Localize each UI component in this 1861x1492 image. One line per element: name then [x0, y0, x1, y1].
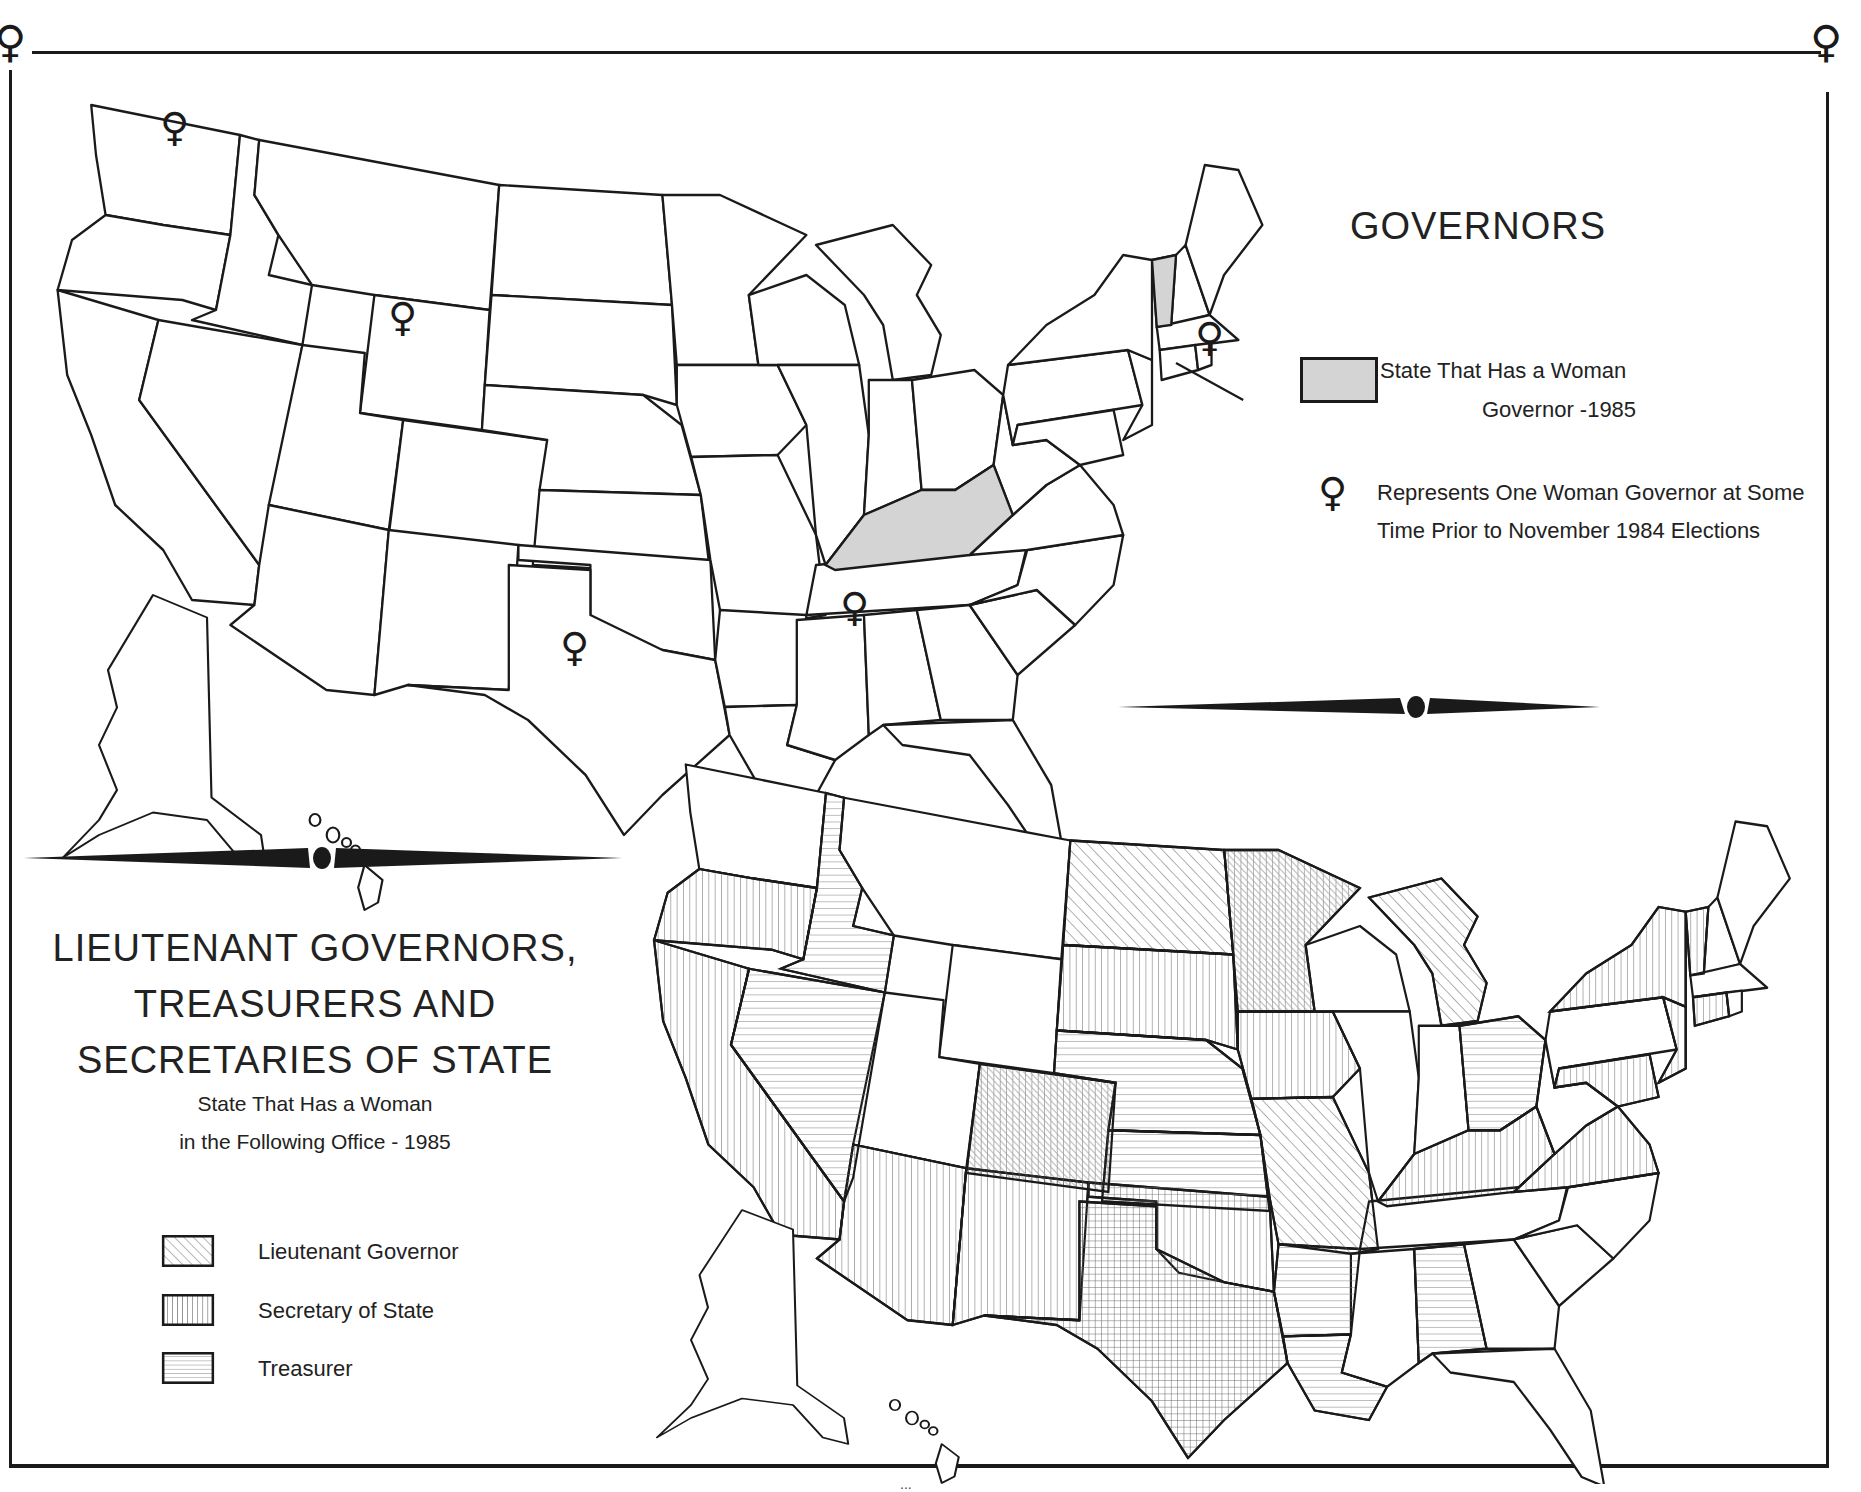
governor-legend-line2: Governor -1985 [1482, 397, 1636, 423]
diagonal-hatch-swatch [160, 1235, 216, 1267]
legend-label: Secretary of State [258, 1298, 434, 1324]
governor-legend-line1: State That Has a Woman [1380, 358, 1626, 384]
female-symbol-icon-connecticut: ♀ [1195, 315, 1224, 359]
governor-shaded-swatch [1300, 357, 1378, 403]
female-symbol-icon-washington: ♀ [160, 105, 189, 149]
officers-title: LIEUTENANT GOVERNORS, TREASURERS AND SEC… [20, 920, 610, 1088]
female-symbol-icon-texas: ♀ [560, 625, 589, 669]
legend-label: Lieutenant Governor [258, 1239, 459, 1265]
officers-title-line1: LIEUTENANT GOVERNORS, [20, 920, 610, 976]
female-symbol-icon-alabama: ♀ [840, 585, 869, 629]
state-vermont-shaded [1152, 255, 1176, 327]
governors-map [58, 105, 1263, 865]
divider-ornament-right [1118, 696, 1600, 718]
legend-secretary-of-state: Secretary of State [160, 1294, 560, 1336]
legend-label: Treasurer [258, 1356, 353, 1382]
officers-subtitle: State That Has a Woman in the Following … [20, 1085, 610, 1161]
officers-title-line3: SECRETARIES OF STATE [20, 1032, 610, 1088]
legend-lieutenant-governor: Lieutenant Governor [160, 1235, 560, 1277]
officers-subtitle-line1: State That Has a Woman [20, 1085, 610, 1123]
vertical-hatch-swatch [160, 1294, 216, 1326]
page-number: ... [900, 1476, 912, 1492]
officers-subtitle-line2: in the Following Office - 1985 [20, 1123, 610, 1161]
officers-map [654, 765, 1790, 1485]
governors-title: GOVERNORS [1350, 205, 1606, 248]
divider-ornament-left [24, 847, 622, 869]
female-symbol-icon: ♀ [1318, 472, 1347, 512]
governor-symbol-legend-text: Represents One Woman Governor at Some Ti… [1377, 474, 1817, 550]
horizontal-hatch-swatch [160, 1352, 216, 1384]
officers-title-line2: TREASURERS AND [20, 976, 610, 1032]
female-symbol-icon-wyoming: ♀ [388, 295, 417, 339]
legend-treasurer: Treasurer [160, 1352, 560, 1394]
